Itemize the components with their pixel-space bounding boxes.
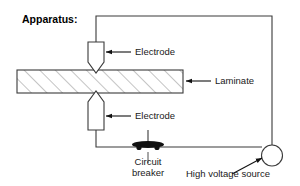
label-laminate: Laminate [215, 75, 254, 86]
label-circuit-breaker-line1: Circuit [119, 156, 177, 167]
label-electrode-top: Electrode [135, 46, 175, 57]
circuit-breaker-contact-right [154, 145, 159, 150]
laminate-block [17, 70, 183, 93]
page-title: Apparatus: [22, 14, 77, 25]
apparatus-diagram: Apparatus: Electrode Laminate Electrode … [0, 0, 300, 186]
label-high-voltage-source: High voltage source [186, 168, 270, 179]
label-circuit-breaker-line2: breaker [119, 167, 177, 178]
electrode-bottom [88, 91, 104, 130]
high-voltage-source [262, 145, 283, 166]
electrode-top [88, 42, 104, 73]
label-electrode-bottom: Electrode [135, 110, 175, 121]
circuit-breaker-contact-left [136, 145, 141, 150]
